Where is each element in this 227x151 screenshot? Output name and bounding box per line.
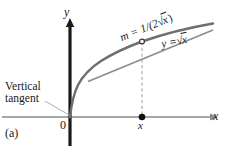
- y-axis-arrowhead: [66, 18, 74, 27]
- tangent-point-marker: [140, 39, 145, 44]
- x-axis-label: x: [213, 110, 218, 123]
- vertical-tangent-leader-line: [45, 101, 69, 115]
- panel-letter: (a): [5, 127, 18, 140]
- figure-sqrt-vertical-tangent: y x 0 x Vertical tangent (a) y =√x m = 1…: [0, 0, 227, 151]
- y-axis-label: y: [64, 6, 69, 19]
- x-axis: [2, 113, 218, 120]
- vertical-tangent-line1: Vertical: [5, 80, 41, 92]
- vertical-tangent-line2: tangent: [5, 92, 41, 104]
- vertical-tangent-annotation: Vertical tangent: [5, 80, 41, 104]
- figure-canvas: [0, 0, 227, 151]
- y-axis: [66, 18, 74, 146]
- x-tick-label: x: [138, 120, 143, 132]
- origin-label: 0: [60, 119, 66, 132]
